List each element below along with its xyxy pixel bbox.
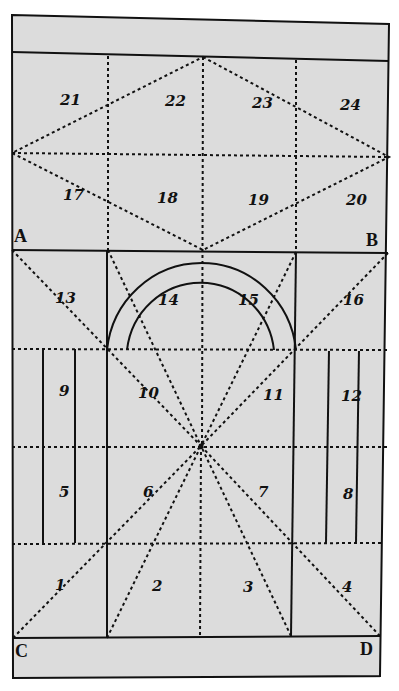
region-label-18: 18 [157, 189, 178, 207]
region-label-21: 21 [59, 91, 81, 109]
region-label-8: 8 [343, 485, 354, 503]
region-label-19: 19 [248, 191, 269, 209]
corner-label-b: B [366, 230, 378, 250]
perspective-diagram: ABCD 21222324171819201314151691011125678… [0, 0, 399, 691]
region-label-2: 2 [151, 577, 162, 595]
region-label-6: 6 [143, 483, 154, 501]
region-label-17: 17 [63, 186, 84, 204]
region-label-5: 5 [59, 483, 69, 501]
region-label-23: 23 [251, 94, 273, 112]
region-label-10: 10 [138, 384, 159, 402]
region-label-15: 15 [238, 291, 259, 309]
region-label-22: 22 [164, 92, 186, 110]
region-label-12: 12 [341, 387, 362, 405]
region-label-9: 9 [59, 382, 70, 400]
horizon-upper [12, 349, 388, 350]
region-label-1: 1 [55, 576, 65, 594]
region-label-3: 3 [243, 578, 253, 596]
corner-label-d: D [360, 639, 373, 659]
region-label-11: 11 [263, 386, 284, 404]
region-label-4: 4 [342, 578, 352, 596]
vanishing-point [199, 444, 204, 449]
region-label-14: 14 [158, 291, 179, 309]
region-label-13: 13 [55, 289, 76, 307]
region-label-24: 24 [339, 96, 361, 114]
region-label-20: 20 [345, 191, 367, 209]
corner-label-c: C [15, 641, 28, 661]
region-label-7: 7 [258, 483, 269, 501]
corner-label-a: A [14, 226, 27, 246]
region-label-16: 16 [343, 291, 364, 309]
